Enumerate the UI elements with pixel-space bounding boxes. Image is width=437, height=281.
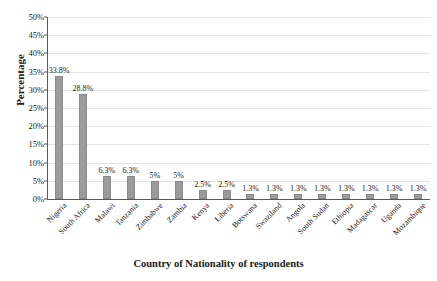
y-tick-label: 30% bbox=[4, 85, 44, 95]
y-tick-label: 15% bbox=[4, 139, 44, 149]
bar[interactable] bbox=[127, 176, 135, 199]
y-axis-title: Percentage bbox=[14, 32, 26, 128]
bar-slot: 1.3% bbox=[262, 17, 286, 199]
bar-slot: 1.3% bbox=[358, 17, 382, 199]
bar-value-label: 6.3% bbox=[99, 166, 116, 175]
bar-chart: Percentage 0%5%10%15%20%25%30%35%40%45%5… bbox=[0, 0, 437, 281]
bar[interactable] bbox=[294, 194, 302, 199]
bar-value-label: 1.3% bbox=[386, 184, 403, 193]
bar-value-label: 5% bbox=[149, 171, 160, 180]
y-tick-label: 35% bbox=[4, 67, 44, 77]
bar-value-label: 1.3% bbox=[242, 184, 259, 193]
bar[interactable] bbox=[390, 194, 398, 199]
bar[interactable] bbox=[270, 194, 278, 199]
bar-value-label: 5% bbox=[173, 171, 184, 180]
bar[interactable] bbox=[79, 94, 87, 199]
bar-slot: 1.3% bbox=[382, 17, 406, 199]
bar[interactable] bbox=[151, 181, 159, 199]
bar[interactable] bbox=[246, 194, 254, 199]
bar-slot: 5% bbox=[143, 17, 167, 199]
bar-value-label: 1.3% bbox=[314, 184, 331, 193]
bar[interactable] bbox=[55, 76, 63, 199]
bars-layer: 33.8%28.8%6.3%6.3%5%5%2.5%2.5%1.3%1.3%1.… bbox=[47, 17, 430, 199]
x-tick-label: Zambia bbox=[165, 201, 189, 225]
y-tick-label: 0% bbox=[4, 194, 44, 204]
y-tick-label: 20% bbox=[4, 121, 44, 131]
bar[interactable] bbox=[175, 181, 183, 199]
bar[interactable] bbox=[366, 194, 374, 199]
y-tick-label: 40% bbox=[4, 48, 44, 58]
bar[interactable] bbox=[414, 194, 422, 199]
bar-slot: 5% bbox=[167, 17, 191, 199]
bar-value-label: 1.3% bbox=[410, 184, 427, 193]
x-axis-title: Country of Nationality of respondents bbox=[0, 258, 437, 269]
x-tick-label-text: Kenya bbox=[191, 201, 212, 222]
bar[interactable] bbox=[199, 190, 207, 199]
x-tick-label-text: Zambia bbox=[165, 201, 189, 225]
bar-slot: 2.5% bbox=[215, 17, 239, 199]
bar[interactable] bbox=[318, 194, 326, 199]
bar-value-label: 28.8% bbox=[73, 84, 94, 93]
bar-value-label: 1.3% bbox=[362, 184, 379, 193]
bar-slot: 1.3% bbox=[239, 17, 263, 199]
bar-value-label: 2.5% bbox=[194, 180, 211, 189]
bar-slot: 2.5% bbox=[191, 17, 215, 199]
bar-value-label: 33.8% bbox=[49, 66, 70, 75]
bar[interactable] bbox=[103, 176, 111, 199]
bar-slot: 1.3% bbox=[334, 17, 358, 199]
bar-slot: 33.8% bbox=[47, 17, 71, 199]
bar-slot: 6.3% bbox=[95, 17, 119, 199]
bar[interactable] bbox=[223, 190, 231, 199]
bar-slot: 6.3% bbox=[119, 17, 143, 199]
y-tick-label: 50% bbox=[4, 12, 44, 22]
bar-slot: 1.3% bbox=[286, 17, 310, 199]
bar-slot: 1.3% bbox=[406, 17, 430, 199]
bar[interactable] bbox=[342, 194, 350, 199]
bar-value-label: 1.3% bbox=[338, 184, 355, 193]
bar-slot: 28.8% bbox=[71, 17, 95, 199]
bar-slot: 1.3% bbox=[310, 17, 334, 199]
bar-value-label: 2.5% bbox=[218, 180, 235, 189]
x-axis-tick-labels: NigeriaSouth AfricaMalawiTanzaniaZimbabw… bbox=[47, 201, 430, 261]
bar-value-label: 6.3% bbox=[122, 166, 139, 175]
y-tick-label: 5% bbox=[4, 176, 44, 186]
x-tick-label: Kenya bbox=[191, 201, 212, 222]
y-tick-label: 45% bbox=[4, 30, 44, 40]
bar-value-label: 1.3% bbox=[290, 184, 307, 193]
y-tick-label: 10% bbox=[4, 158, 44, 168]
y-tick-label: 25% bbox=[4, 103, 44, 113]
bar-value-label: 1.3% bbox=[266, 184, 283, 193]
